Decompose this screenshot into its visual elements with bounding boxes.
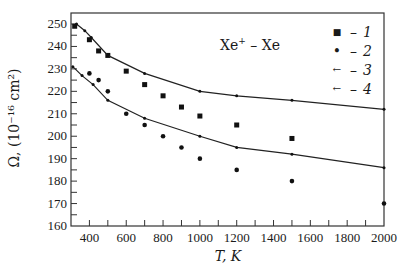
square-marker: [179, 105, 184, 110]
tick-marker: [92, 83, 95, 86]
y-tick-label: 220: [48, 83, 68, 98]
legend-label: 3: [363, 62, 372, 78]
square-marker: [161, 93, 166, 98]
tick-marker: [81, 74, 84, 77]
circle-marker: [290, 179, 295, 184]
x-tick-label: 600: [116, 230, 136, 245]
square-marker: [124, 69, 129, 74]
circle-marker: [161, 134, 166, 139]
x-tick-label: 1000: [187, 230, 213, 245]
annotation-sup: +: [238, 36, 246, 46]
y-tick-label: 180: [48, 173, 68, 188]
legend-label: 1: [363, 24, 372, 40]
circle-marker: [382, 201, 387, 206]
y-tick-label: 230: [48, 61, 68, 76]
legend-item-2: • – 2: [330, 41, 372, 60]
legend-dash: –: [350, 24, 357, 40]
square-marker: [197, 114, 202, 119]
legend-item-4: ← – 4: [330, 79, 372, 98]
circle-marker-icon: •: [330, 43, 344, 59]
square-marker: [234, 123, 239, 128]
arrow-marker-icon: ←: [330, 83, 344, 94]
tick-marker: [106, 99, 109, 102]
circle-marker: [179, 145, 184, 150]
legend-item-1: ■ – 1: [330, 22, 372, 41]
square-marker-icon: ■: [330, 27, 344, 37]
circle-marker: [142, 123, 147, 128]
tick-marker: [71, 65, 74, 68]
y-tick-label: 190: [48, 151, 68, 166]
annotation-rest: – Xe: [246, 37, 280, 53]
legend-dash: –: [350, 62, 357, 78]
y-tick-label: 160: [48, 218, 68, 233]
circle-marker: [198, 156, 203, 161]
x-tick-label: 1800: [334, 230, 360, 245]
x-tick-label: 800: [153, 230, 173, 245]
arrow-marker-icon: ←: [330, 64, 344, 75]
circle-marker: [106, 89, 111, 94]
tick-marker: [235, 94, 238, 97]
legend: ■ – 1 • – 2 ← – 3 ← – 4: [330, 22, 372, 98]
circle-marker: [124, 111, 129, 116]
x-axis-label-text: T, K: [215, 248, 242, 264]
tick-marker: [143, 72, 146, 75]
system-annotation: Xe+ – Xe: [220, 36, 280, 53]
x-axis-label: T, K: [0, 248, 416, 264]
tick-marker: [383, 166, 386, 169]
legend-label: 2: [363, 43, 372, 59]
square-marker: [142, 82, 147, 87]
tick-marker: [143, 117, 146, 120]
tick-marker: [290, 99, 293, 102]
square-marker: [96, 48, 101, 53]
legend-item-3: ← – 3: [330, 60, 372, 79]
tick-marker: [235, 146, 238, 149]
x-tick-label: 2000: [371, 230, 397, 245]
tick-marker: [198, 90, 201, 93]
legend-dash: –: [350, 81, 357, 97]
x-tick-label: 1600: [297, 230, 323, 245]
legend-dash: –: [350, 43, 357, 59]
tick-marker: [75, 23, 78, 26]
tick-marker: [198, 135, 201, 138]
y-tick-label: 250: [48, 16, 68, 31]
circle-marker: [87, 71, 92, 76]
tick-marker: [383, 108, 386, 111]
legend-label: 4: [363, 81, 372, 97]
circle-marker: [234, 168, 239, 173]
square-marker: [289, 136, 294, 141]
tick-marker: [90, 36, 93, 39]
x-tick-label: 1400: [261, 230, 287, 245]
circle-marker: [96, 78, 101, 83]
annotation-base: Xe: [220, 37, 238, 53]
y-tick-label: 210: [48, 106, 68, 121]
y-tick-label: 200: [48, 128, 68, 143]
y-tick-label: 240: [48, 38, 68, 53]
tick-marker: [290, 153, 293, 156]
x-tick-label: 1200: [224, 230, 250, 245]
tick-marker: [106, 54, 109, 57]
tick-marker: [83, 29, 86, 32]
x-tick-label: 400: [80, 230, 100, 245]
y-tick-label: 170: [48, 196, 68, 211]
y-axis-label: Ω, (10⁻¹⁶ cm²): [6, 68, 22, 167]
